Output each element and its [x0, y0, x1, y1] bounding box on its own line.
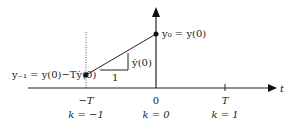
index-label-1: k = 1 — [211, 109, 238, 120]
index-label-minus-1: k = −1 — [68, 109, 104, 120]
tick-label-minus-T: −T — [78, 95, 94, 106]
backward-extrapolation-diagram: t 1 ẏ(0) y₀ = y(0) y₋₁ = y(0)−Tẏ(0) −T k… — [0, 0, 291, 125]
y-axis-arrow-icon — [152, 7, 160, 17]
t-axis-arrow-icon — [268, 84, 277, 92]
slope-triangle — [100, 53, 128, 70]
index-label-0: k = 0 — [142, 109, 170, 120]
t-axis-label: t — [280, 83, 285, 94]
point-prev-label: y₋₁ = y(0)−Tẏ(0) — [11, 69, 96, 80]
point-current — [154, 32, 159, 37]
slope-rise-label: ẏ(0) — [131, 57, 152, 68]
tick-label-0: 0 — [153, 95, 159, 106]
tick-label-T: T — [222, 95, 230, 106]
point-current-label: y₀ = y(0) — [161, 28, 206, 39]
slope-run-label: 1 — [112, 72, 118, 83]
slope-line — [86, 34, 156, 75]
